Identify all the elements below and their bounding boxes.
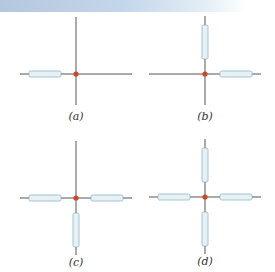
center-point-icon bbox=[202, 71, 207, 76]
panel-c bbox=[20, 141, 132, 255]
rod-up bbox=[202, 25, 208, 59]
panel-b bbox=[149, 16, 261, 105]
panel-label-d: (d) bbox=[197, 255, 213, 268]
panel-label-b: (b) bbox=[197, 110, 213, 123]
rod-right bbox=[220, 71, 252, 77]
rod-down bbox=[73, 213, 79, 247]
rod-right bbox=[91, 195, 123, 201]
panel-a bbox=[20, 17, 132, 105]
rod-left bbox=[29, 195, 61, 201]
panel-label-a: (a) bbox=[68, 110, 83, 123]
panel-label-c: (c) bbox=[69, 256, 84, 269]
panel-d bbox=[149, 139, 261, 254]
rod-down bbox=[202, 212, 208, 246]
center-point-icon bbox=[73, 195, 78, 200]
rod-right bbox=[220, 194, 252, 200]
rod-up bbox=[202, 148, 208, 182]
center-point-icon bbox=[73, 71, 78, 76]
rod-left bbox=[158, 194, 190, 200]
rod-left bbox=[29, 71, 61, 77]
rod-configuration-diagram bbox=[0, 0, 275, 272]
center-point-icon bbox=[202, 194, 207, 199]
